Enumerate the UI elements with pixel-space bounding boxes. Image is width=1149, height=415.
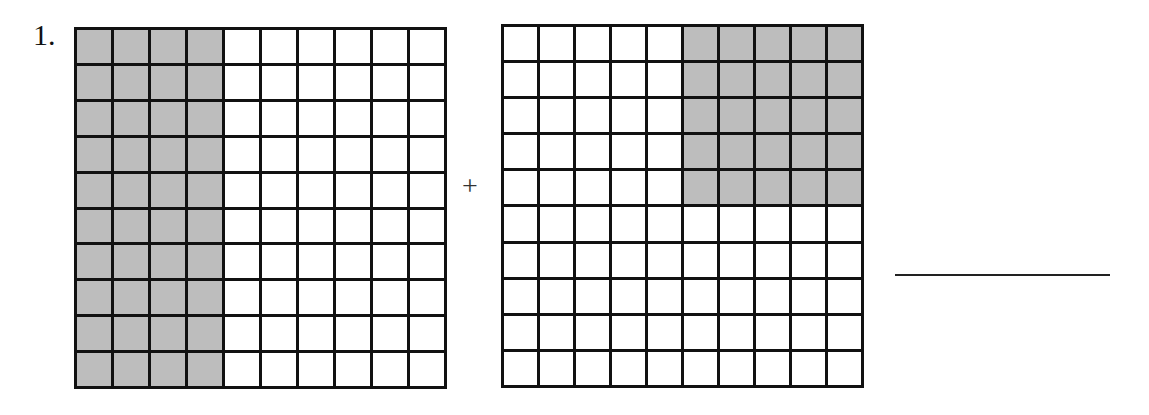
grid-cell <box>720 99 753 132</box>
grid-cell <box>114 317 148 350</box>
grid-cell <box>336 102 370 135</box>
grid-cell <box>77 210 111 243</box>
grid-cell <box>262 353 296 386</box>
grid-cell <box>114 138 148 171</box>
grid-cell <box>225 317 259 350</box>
grid-cell <box>188 210 222 243</box>
grid-cell <box>792 27 825 60</box>
grid-cell <box>151 353 185 386</box>
grid-cell <box>410 317 444 350</box>
grid-cell <box>576 352 609 385</box>
grid-cell <box>262 317 296 350</box>
grid-cell <box>612 244 645 277</box>
grid-cell <box>373 30 407 63</box>
grid-cell <box>540 171 573 204</box>
grid-cell <box>410 210 444 243</box>
grid-cell <box>720 207 753 240</box>
grid-cell <box>504 63 537 96</box>
grid-cell <box>188 66 222 99</box>
grid-cell <box>77 138 111 171</box>
grid-cell <box>77 174 111 207</box>
grid-cell <box>792 207 825 240</box>
grid-cell <box>576 171 609 204</box>
grid-cell <box>828 352 861 385</box>
grid-cell <box>373 66 407 99</box>
grid-cell <box>792 171 825 204</box>
grid-cell <box>504 352 537 385</box>
grid-cell <box>720 135 753 168</box>
grid-cell <box>77 66 111 99</box>
grid-cell <box>684 63 717 96</box>
grid-cell <box>612 135 645 168</box>
grid-cell <box>299 281 333 314</box>
grid-cell <box>576 27 609 60</box>
grid-cell <box>612 171 645 204</box>
grid-cell <box>576 63 609 96</box>
grid-cell <box>648 27 681 60</box>
grid-cell <box>225 174 259 207</box>
grid-cell <box>540 316 573 349</box>
grid-cell <box>828 280 861 313</box>
grid-cell <box>410 281 444 314</box>
grid-cell <box>151 245 185 278</box>
answer-line[interactable] <box>895 274 1110 276</box>
grid-cell <box>373 281 407 314</box>
grid-cell <box>684 27 717 60</box>
grid-cell <box>114 245 148 278</box>
grid-cell <box>373 174 407 207</box>
hundred-grid-2 <box>501 24 864 388</box>
grid-cell <box>540 207 573 240</box>
grid-cell <box>720 352 753 385</box>
grid-cell <box>684 171 717 204</box>
grid-cell <box>576 280 609 313</box>
grid-cell <box>684 135 717 168</box>
grid-cell <box>828 316 861 349</box>
grid-cell <box>720 316 753 349</box>
grid-cell <box>299 66 333 99</box>
grid-cell <box>828 135 861 168</box>
grid-cell <box>151 102 185 135</box>
grid-cell <box>373 353 407 386</box>
grid-cell <box>828 63 861 96</box>
grid-cell <box>612 207 645 240</box>
grid-cell <box>756 244 789 277</box>
grid-cell <box>612 280 645 313</box>
grid-cell <box>756 99 789 132</box>
grid-cell <box>612 27 645 60</box>
grid-cell <box>262 138 296 171</box>
grid-cell <box>792 352 825 385</box>
grid-cell <box>77 102 111 135</box>
grid-cell <box>648 99 681 132</box>
grid-cell <box>410 66 444 99</box>
grid-cell <box>576 244 609 277</box>
grid-cell <box>114 30 148 63</box>
grid-cell <box>114 66 148 99</box>
grid-cell <box>648 135 681 168</box>
grid-cell <box>576 316 609 349</box>
grid-cell <box>504 135 537 168</box>
grid-cell <box>504 244 537 277</box>
grid-cell <box>336 174 370 207</box>
grid-cell <box>612 99 645 132</box>
grid-cell <box>373 102 407 135</box>
grid-cell <box>225 102 259 135</box>
grid-cell <box>540 27 573 60</box>
grid-cell <box>612 63 645 96</box>
grid-cell <box>576 99 609 132</box>
grid-cell <box>648 244 681 277</box>
grid-cell <box>504 27 537 60</box>
grid-cell <box>684 280 717 313</box>
problem-number: 1. <box>33 18 56 52</box>
grid-cell <box>756 27 789 60</box>
grid-cell <box>114 174 148 207</box>
grid-cell <box>720 244 753 277</box>
grid-cell <box>225 210 259 243</box>
grid-cell <box>262 281 296 314</box>
grid-cell <box>410 138 444 171</box>
grid-cell <box>336 245 370 278</box>
hundred-grid-1 <box>74 27 447 389</box>
grid-cell <box>720 27 753 60</box>
grid-cell <box>151 174 185 207</box>
grid-cell <box>756 280 789 313</box>
grid-cell <box>504 99 537 132</box>
